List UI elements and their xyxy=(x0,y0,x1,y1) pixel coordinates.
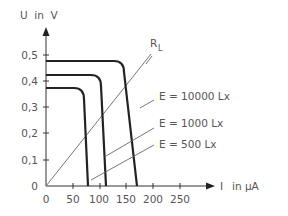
leader-10000lx xyxy=(140,100,154,108)
x-tick-label: 50 xyxy=(66,193,79,205)
y-tick-label: 0,5 xyxy=(21,49,38,61)
rl-label: R xyxy=(150,37,157,49)
curve-10000lx xyxy=(46,61,137,186)
y-axis-arrow-icon xyxy=(43,27,50,36)
x-tick-label: 0 xyxy=(43,193,50,205)
label-10000lx: E = 10000 Lx xyxy=(159,90,230,102)
y-tick-label: 0,3 xyxy=(21,101,38,113)
x-tick-label: 100 xyxy=(89,193,109,205)
x-tick-label: 200 xyxy=(143,193,163,205)
iv-chart: 0,5 0,4 0,3 0,2 0,1 0 0 50 100 150 200 2… xyxy=(0,0,288,216)
label-1000lx: E = 1000 Lx xyxy=(159,117,223,129)
x-axis-label-unit: in µA xyxy=(232,180,260,192)
rl-subscript: L xyxy=(158,44,163,53)
x-tick-label: 150 xyxy=(116,193,136,205)
label-500lx: E = 500 Lx xyxy=(159,138,217,150)
x-axis-label-symbol: I xyxy=(220,180,223,192)
y-tick-label: 0 xyxy=(31,180,38,192)
y-tick-label: 0,2 xyxy=(21,127,38,139)
y-axis-label: U in V xyxy=(20,9,59,21)
curve-1000lx xyxy=(46,75,106,186)
y-tick-label: 0,4 xyxy=(21,75,38,87)
x-axis-arrow-icon xyxy=(206,183,215,190)
x-tick-label: 250 xyxy=(170,193,190,205)
y-tick-label: 0,1 xyxy=(21,154,38,166)
curve-500lx xyxy=(46,88,88,186)
leader-500lx xyxy=(91,145,154,180)
